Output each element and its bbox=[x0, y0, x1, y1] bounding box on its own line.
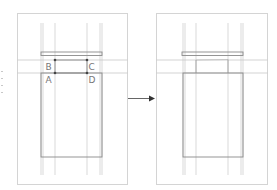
edge-mark bbox=[1, 85, 3, 86]
left-edge-marks bbox=[1, 71, 3, 93]
after-panel bbox=[157, 14, 268, 185]
inner-rect-bcda bbox=[55, 60, 87, 73]
connector-line bbox=[196, 60, 228, 61]
before-frame bbox=[18, 14, 128, 185]
transform-arrow bbox=[128, 96, 155, 102]
after-frame bbox=[157, 14, 268, 185]
edge-mark bbox=[1, 78, 3, 79]
label-d: D bbox=[89, 75, 96, 85]
edge-mark bbox=[1, 71, 3, 72]
arrow-head-icon bbox=[149, 96, 155, 102]
label-c: C bbox=[89, 62, 95, 72]
main-rect bbox=[183, 73, 243, 157]
label-a: A bbox=[46, 75, 53, 85]
edge-mark bbox=[1, 92, 3, 93]
point-b bbox=[54, 59, 57, 62]
top-bar bbox=[182, 52, 243, 56]
before-panel: B C A D bbox=[18, 14, 128, 185]
top-bar bbox=[41, 52, 102, 56]
point-a bbox=[54, 72, 57, 75]
diagram-canvas: B C A D bbox=[0, 0, 277, 190]
label-b: B bbox=[46, 62, 52, 72]
point-c bbox=[86, 59, 89, 62]
main-rect bbox=[41, 73, 102, 157]
point-d bbox=[86, 72, 89, 75]
